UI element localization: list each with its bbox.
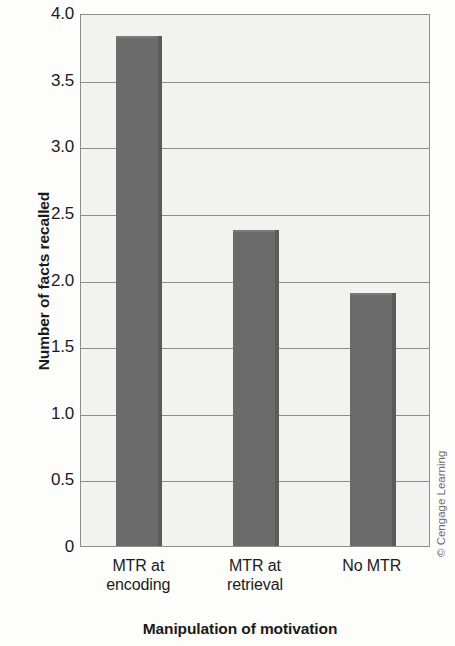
y-tick-label: 2.0	[0, 271, 74, 291]
plot-area	[80, 14, 430, 547]
bar	[116, 36, 162, 546]
y-tick-label: 0	[0, 537, 74, 557]
x-tick-label-line: MTR at	[80, 556, 197, 575]
x-tick-label-line: No MTR	[313, 556, 430, 575]
y-tick-label: 1.5	[0, 337, 74, 357]
x-axis-tick-labels: MTR atencodingMTR atretrievalNo MTR	[80, 556, 430, 616]
bar-chart-figure: Number of facts recalled 4.03.53.02.52.0…	[0, 0, 455, 646]
y-tick-label: 0.5	[0, 470, 74, 490]
x-tick-label-line: encoding	[80, 575, 197, 594]
x-tick-label: MTR atencoding	[80, 556, 197, 594]
y-tick-label: 3.0	[0, 137, 74, 157]
y-tick-label: 2.5	[0, 204, 74, 224]
y-tick-label: 4.0	[0, 4, 74, 24]
y-tick-label: 1.0	[0, 404, 74, 424]
y-tick-label: 3.5	[0, 71, 74, 91]
x-tick-label: MTR atretrieval	[197, 556, 314, 594]
attribution-text: © Cengage Learning	[435, 417, 447, 557]
x-tick-label-line: retrieval	[197, 575, 314, 594]
bar	[233, 230, 279, 546]
x-axis-title: Manipulation of motivation	[50, 620, 430, 638]
x-tick-label: No MTR	[313, 556, 430, 575]
bar	[350, 293, 396, 546]
x-tick-label-line: MTR at	[197, 556, 314, 575]
bar-series	[81, 15, 429, 546]
y-axis-tick-labels: 4.03.53.02.52.01.51.00.50	[0, 0, 74, 646]
